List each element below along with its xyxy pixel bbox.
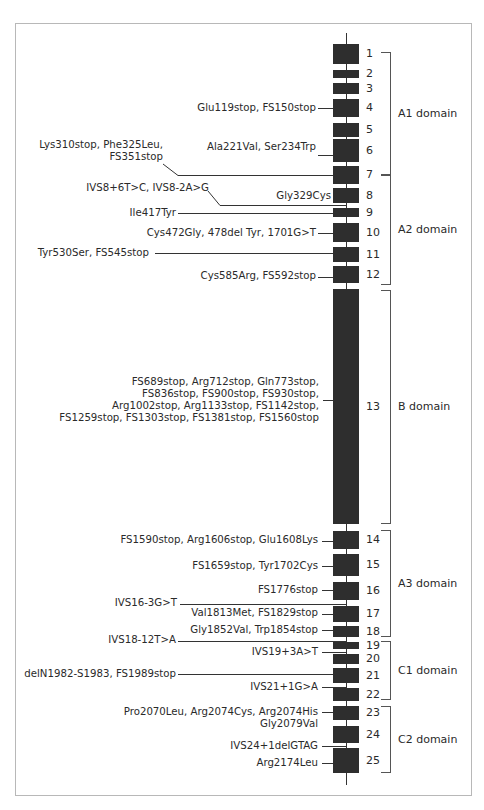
mutation-label: Lys310stop, Phe325Leu,FS351stop: [39, 139, 163, 163]
mutation-label: Tyr530Ser, FS545stop: [38, 247, 149, 259]
mutation-label: Glu119stop, FS150stop: [197, 102, 316, 114]
exon-number: 16: [366, 585, 380, 597]
exon-number: 19: [366, 640, 380, 652]
mutation-label: Arg2174Leu: [256, 757, 318, 769]
mutation-label-line: IVS18-12T>A: [108, 634, 176, 646]
exon-22-box: [333, 688, 359, 701]
mutation-label-line: FS689stop, Arg712stop, Gln773stop,: [59, 376, 319, 388]
mutation-label: Ile417Tyr: [130, 207, 176, 219]
mutation-label: IVS16-3G>T: [115, 597, 177, 609]
domain-label: C1 domain: [398, 665, 457, 677]
mutation-label: FS689stop, Arg712stop, Gln773stop,FS836s…: [59, 376, 319, 424]
exon-number: 1: [366, 48, 373, 60]
mutation-label-line: Arg2174Leu: [256, 757, 318, 769]
mutation-label: Val1813Met, FS1829stop: [191, 607, 318, 619]
domain-bracket: [381, 706, 391, 773]
domain-label: A1 domain: [398, 108, 457, 120]
domain-label: B domain: [398, 401, 450, 413]
mutation-label-line: IVS16-3G>T: [115, 597, 177, 609]
mutation-label-line: IVS19+3A>T: [252, 646, 318, 658]
exon-number: 17: [366, 608, 380, 620]
exon-number: 7: [366, 169, 373, 181]
exon-14-box: [333, 531, 359, 549]
mutation-label: FS1659stop, Tyr1702Cys: [192, 560, 318, 572]
exon-number: 25: [366, 755, 380, 767]
exon-number: 13: [366, 401, 380, 413]
mutation-label: Cys585Arg, FS592stop: [201, 270, 316, 282]
mutation-label-line: Lys310stop, Phe325Leu,: [39, 139, 163, 151]
exon-number: 6: [366, 145, 373, 157]
domain-bracket: [381, 175, 391, 285]
mutation-label: Pro2070Leu, Arg2074Cys, Arg2074HisGly207…: [124, 706, 318, 730]
exon-number: 8: [366, 190, 373, 202]
mutation-label: Gly1852Val, Trp1854stop: [190, 624, 318, 636]
exon-number: 4: [366, 102, 373, 114]
exon-number: 2: [366, 68, 373, 80]
exon-number: 5: [366, 124, 373, 136]
mutation-label-line: FS1659stop, Tyr1702Cys: [192, 560, 318, 572]
mutation-label-line: FS1590stop, Arg1606stop, Glu1608Lys: [120, 534, 318, 546]
exon-number: 10: [366, 227, 380, 239]
exon-1-box: [333, 44, 359, 64]
mutation-label-line: IVS24+1delGTAG: [230, 740, 318, 752]
mutation-label: delN1982-S1983, FS1989stop: [24, 668, 176, 680]
mutation-label-line: Pro2070Leu, Arg2074Cys, Arg2074His: [124, 706, 318, 718]
exon-number: 3: [366, 83, 373, 95]
mutation-label-line: Cys472Gly, 478del Tyr, 1701G>T: [147, 227, 316, 239]
exon-number: 15: [366, 559, 380, 571]
leader-line-diagonal: [208, 191, 220, 206]
exon-number: 9: [366, 207, 373, 219]
mutation-label-line: Glu119stop, FS150stop: [197, 102, 316, 114]
domain-bracket: [381, 52, 391, 175]
exon-13-box: [333, 289, 359, 524]
exon-19-box: [333, 642, 359, 649]
mutation-label-line: Val1813Met, FS1829stop: [191, 607, 318, 619]
exon-15-box: [333, 554, 359, 576]
mutation-label-line: FS836stop, FS900stop, FS930stop,: [59, 388, 319, 400]
exon-21-box: [333, 668, 359, 683]
domain-bracket: [381, 290, 391, 524]
exon-number: 24: [366, 729, 380, 741]
exon-12-box: [333, 266, 359, 283]
fviii-gene-exon-diagram: 1234567891011121314151617181920212223242…: [0, 0, 484, 810]
exon-11-box: [333, 247, 359, 262]
exon-6-box: [333, 139, 359, 162]
mutation-label-line: Ile417Tyr: [130, 207, 176, 219]
exon-number: 12: [366, 269, 380, 281]
mutation-label-line: Gly329Cys: [276, 190, 331, 202]
exon-23-box: [333, 706, 359, 720]
domain-label: C2 domain: [398, 734, 457, 746]
exon-4-box: [333, 99, 359, 117]
domain-bracket: [381, 641, 391, 700]
mutation-label: Cys472Gly, 478del Tyr, 1701G>T: [147, 227, 316, 239]
mutation-label-line: delN1982-S1983, FS1989stop: [24, 668, 176, 680]
mutation-label: IVS21+1G>A: [250, 681, 318, 693]
exon-25-box: [333, 748, 359, 773]
mutation-label: Gly329Cys: [276, 190, 331, 202]
mutation-label-line: IVS21+1G>A: [250, 681, 318, 693]
exon-17-box: [333, 606, 359, 622]
mutation-label: IVS8+6T>C, IVS8-2A>G: [86, 182, 209, 194]
mutation-label-line: IVS8+6T>C, IVS8-2A>G: [86, 182, 209, 194]
exon-number: 21: [366, 670, 380, 682]
mutation-label: FS1776stop: [258, 584, 318, 596]
mutation-label: IVS18-12T>A: [108, 634, 176, 646]
exon-16-box: [333, 582, 359, 600]
exon-20-box: [333, 654, 359, 664]
mutation-label-line: Gly1852Val, Trp1854stop: [190, 624, 318, 636]
mutation-label: IVS19+3A>T: [252, 646, 318, 658]
exon-18-box: [333, 626, 359, 637]
domain-bracket: [381, 530, 391, 637]
domain-label: A3 domain: [398, 578, 457, 590]
mutation-label: FS1590stop, Arg1606stop, Glu1608Lys: [120, 534, 318, 546]
mutation-label-line: FS1259stop, FS1303stop, FS1381stop, FS15…: [59, 412, 319, 424]
mutation-label-line: Tyr530Ser, FS545stop: [38, 247, 149, 259]
mutation-label: Ala221Val, Ser234Trp: [207, 141, 316, 153]
mutation-label-line: Cys585Arg, FS592stop: [201, 270, 316, 282]
exon-9-box: [333, 208, 359, 217]
domain-label: A2 domain: [398, 224, 457, 236]
exon-2-box: [333, 70, 359, 78]
exon-8-box: [333, 188, 359, 203]
exon-number: 14: [366, 534, 380, 546]
exon-24-box: [333, 726, 359, 743]
